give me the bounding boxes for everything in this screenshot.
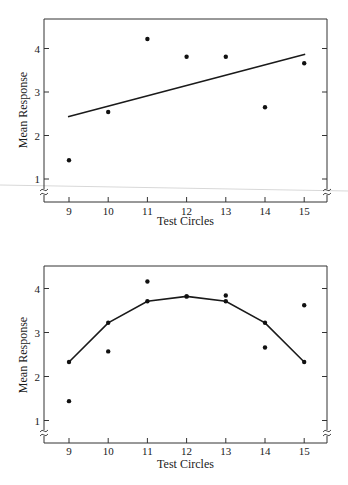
scan-artifact-line <box>0 185 348 191</box>
y-tick-label: 3 <box>35 327 41 339</box>
x-axis-title: Test Circles <box>157 214 214 228</box>
charts-figure: 12349101112131415Test CirclesMean Respon… <box>0 0 348 485</box>
data-point <box>67 158 71 162</box>
x-tick-label: 14 <box>260 205 272 217</box>
x-axis-line <box>44 195 327 202</box>
y-tick-label: 4 <box>35 43 41 55</box>
x-tick-label: 9 <box>66 445 72 457</box>
axis-break-icon <box>40 189 48 195</box>
top-chart-linear-fit: 12349101112131415Test CirclesMean Respon… <box>16 19 331 228</box>
x-tick-label: 11 <box>142 205 153 217</box>
data-point <box>224 55 228 59</box>
x-tick-label: 9 <box>66 205 72 217</box>
data-point <box>302 303 306 307</box>
data-point <box>106 110 110 114</box>
x-tick-label: 14 <box>260 445 272 457</box>
fit-marker <box>67 360 71 364</box>
x-tick-label: 15 <box>299 445 311 457</box>
fit-marker <box>263 321 267 325</box>
data-point <box>67 399 71 403</box>
y-tick-label: 1 <box>35 415 41 427</box>
fit-marker <box>145 299 149 303</box>
y-tick-label: 3 <box>35 86 41 98</box>
x-tick-label: 13 <box>220 445 232 457</box>
x-axis-title: Test Circles <box>157 457 214 471</box>
data-point <box>145 279 149 283</box>
fit-marker <box>184 294 188 298</box>
fit-marker <box>302 360 306 364</box>
y-tick-label: 1 <box>35 173 41 185</box>
fit-marker <box>224 299 228 303</box>
y-tick-label: 2 <box>35 130 41 142</box>
data-point <box>184 55 188 59</box>
x-tick-label: 12 <box>181 445 192 457</box>
linear-fit-line <box>68 54 305 117</box>
y-tick-label: 2 <box>35 371 41 383</box>
quadratic-fit-line <box>69 296 304 362</box>
data-point <box>263 105 267 109</box>
data-point <box>145 37 149 41</box>
y-tick-label: 4 <box>35 283 41 295</box>
y-axis-title: Mean Response <box>16 317 30 393</box>
plot-frame <box>44 19 327 189</box>
axis-break-icon <box>323 189 331 195</box>
plot-frame <box>44 266 327 430</box>
x-tick-label: 15 <box>299 205 311 217</box>
x-tick-label: 13 <box>220 205 232 217</box>
bottom-chart-quadratic-fit: 12349101112131415Test CirclesMean Respon… <box>16 266 331 471</box>
data-point <box>224 293 228 297</box>
data-point <box>106 349 110 353</box>
x-tick-label: 11 <box>142 445 153 457</box>
x-tick-label: 10 <box>103 205 115 217</box>
data-point <box>302 61 306 65</box>
axis-break-icon <box>40 430 48 436</box>
fit-marker <box>106 321 110 325</box>
x-tick-label: 10 <box>103 445 115 457</box>
axis-break-icon <box>323 430 331 436</box>
data-point <box>263 345 267 349</box>
x-axis-line <box>44 436 327 443</box>
y-axis-title: Mean Response <box>16 72 30 148</box>
